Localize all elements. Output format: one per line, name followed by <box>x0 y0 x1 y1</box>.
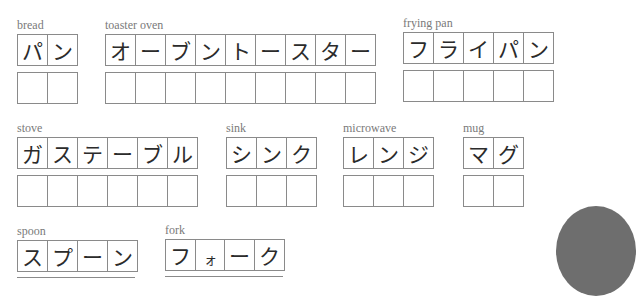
katakana-cell: グ <box>494 138 524 168</box>
katakana-cell: ス <box>48 138 78 168</box>
practice-grid <box>17 72 78 104</box>
katakana-grid: ガ ス テ ー ブ ル <box>17 137 198 169</box>
katakana-cell: オ <box>106 35 136 65</box>
practice-cell[interactable] <box>18 176 48 206</box>
katakana-cell: ー <box>136 35 166 65</box>
practice-cell[interactable] <box>374 176 404 206</box>
word-spoon: spoon ス プ ー ン <box>17 224 138 278</box>
word-mug: mug マ グ <box>463 121 524 207</box>
katakana-cell: ク <box>255 240 285 270</box>
katakana-cell: ス <box>18 241 48 271</box>
katakana-cell: フ <box>166 240 196 270</box>
katakana-cell: シ <box>227 138 257 168</box>
practice-cell[interactable] <box>316 73 346 103</box>
katakana-cell: ン <box>196 35 226 65</box>
word-stove: stove ガ ス テ ー ブ ル <box>17 121 198 207</box>
practice-cell[interactable] <box>168 176 198 206</box>
word-frying-pan: frying pan フ ラ イ パ ン <box>403 16 554 102</box>
katakana-cell: ン <box>374 138 404 168</box>
word-sink: sink シ ン ク <box>226 121 317 207</box>
practice-cell[interactable] <box>256 73 286 103</box>
practice-cell[interactable] <box>106 73 136 103</box>
katakana-cell: タ <box>316 35 346 65</box>
practice-cell[interactable] <box>287 176 317 206</box>
practice-cell[interactable] <box>166 73 196 103</box>
practice-grid <box>463 175 524 207</box>
practice-cell[interactable] <box>136 73 166 103</box>
katakana-cell: ス <box>286 35 316 65</box>
word-label: frying pan <box>403 16 554 32</box>
word-label: spoon <box>17 224 138 240</box>
word-bread: bread パ ン <box>17 18 78 104</box>
katakana-grid: ス プ ー ン <box>17 240 138 272</box>
katakana-cell: ク <box>287 138 317 168</box>
practice-cell[interactable] <box>434 71 464 101</box>
practice-cell[interactable] <box>196 73 226 103</box>
katakana-cell: パ <box>494 33 524 63</box>
practice-grid <box>17 175 198 207</box>
practice-cell[interactable] <box>18 73 48 103</box>
katakana-cell: ブ <box>166 35 196 65</box>
practice-cell[interactable] <box>346 73 376 103</box>
katakana-cell: ブ <box>138 138 168 168</box>
katakana-cell: テ <box>78 138 108 168</box>
katakana-cell: ン <box>108 241 138 271</box>
katakana-cell: パ <box>18 35 48 65</box>
word-label: sink <box>226 121 317 137</box>
practice-cell[interactable] <box>524 71 554 101</box>
word-label: microwave <box>343 121 434 137</box>
word-label: mug <box>463 121 524 137</box>
word-label: bread <box>17 18 78 34</box>
katakana-cell: ト <box>226 35 256 65</box>
practice-cell[interactable] <box>78 176 108 206</box>
katakana-grid: フ ラ イ パ ン <box>403 32 554 64</box>
katakana-grid: マ グ <box>463 137 524 169</box>
practice-cell[interactable] <box>257 176 287 206</box>
practice-grid <box>343 175 434 207</box>
katakana-cell: フ <box>404 33 434 63</box>
practice-cell[interactable] <box>344 176 374 206</box>
practice-cell[interactable] <box>226 73 256 103</box>
practice-cell[interactable] <box>286 73 316 103</box>
practice-cell[interactable] <box>494 71 524 101</box>
practice-cell[interactable] <box>48 176 78 206</box>
word-label: fork <box>165 223 285 239</box>
practice-grid-top-edge <box>165 276 283 277</box>
page-tab-circle-icon <box>556 206 636 296</box>
practice-cell[interactable] <box>404 176 434 206</box>
katakana-cell: ォ <box>196 240 225 270</box>
word-microwave: microwave レ ン ジ <box>343 121 434 207</box>
katakana-cell: ー <box>108 138 138 168</box>
practice-cell[interactable] <box>48 73 78 103</box>
katakana-grid: フ ォ ー ク <box>165 239 285 271</box>
practice-cell[interactable] <box>227 176 257 206</box>
practice-grid <box>105 72 376 104</box>
word-fork: fork フ ォ ー ク <box>165 223 285 277</box>
katakana-cell: ル <box>168 138 198 168</box>
katakana-cell: ー <box>225 240 255 270</box>
katakana-cell: ン <box>524 33 554 63</box>
katakana-cell: イ <box>464 33 494 63</box>
katakana-cell: マ <box>464 138 494 168</box>
practice-cell[interactable] <box>464 176 494 206</box>
practice-cell[interactable] <box>138 176 168 206</box>
word-toaster-oven: toaster oven オ ー ブ ン ト ー ス タ ー <box>105 18 376 104</box>
katakana-cell: ジ <box>404 138 434 168</box>
katakana-grid: レ ン ジ <box>343 137 434 169</box>
practice-grid-top-edge <box>17 277 135 278</box>
practice-cell[interactable] <box>464 71 494 101</box>
practice-grid <box>403 70 554 102</box>
katakana-cell: ラ <box>434 33 464 63</box>
katakana-cell: ー <box>346 35 376 65</box>
katakana-cell: ガ <box>18 138 48 168</box>
katakana-cell: ー <box>78 241 108 271</box>
practice-cell[interactable] <box>404 71 434 101</box>
practice-grid <box>226 175 317 207</box>
katakana-cell: ー <box>256 35 286 65</box>
katakana-grid: シ ン ク <box>226 137 317 169</box>
practice-cell[interactable] <box>108 176 138 206</box>
practice-cell[interactable] <box>494 176 524 206</box>
katakana-grid: パ ン <box>17 34 78 66</box>
katakana-cell: ン <box>48 35 78 65</box>
katakana-cell: プ <box>48 241 78 271</box>
